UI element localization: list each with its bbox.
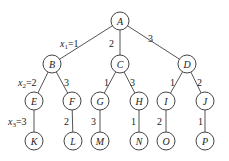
node-N: N [130, 132, 148, 150]
node-label: K [30, 136, 39, 147]
node-H: H [130, 92, 148, 110]
edge-label-D-I: 1 [170, 77, 175, 88]
node-A: A [111, 12, 129, 30]
edge-label-C-G: 1 [104, 77, 109, 88]
tree-diagram: x1=123x2=231312x3=323121 ABCDEFGHIJKLMNO… [0, 0, 229, 161]
node-label: M [95, 136, 105, 147]
node-D: D [178, 55, 196, 73]
node-K: K [25, 132, 43, 150]
node-I: I [157, 92, 175, 110]
node-G: G [91, 92, 109, 110]
node-E: E [25, 92, 43, 110]
edge-label-E-K: x3=3 [7, 116, 27, 129]
node-label: C [117, 59, 124, 70]
node-label: J [203, 96, 208, 107]
node-C: C [111, 55, 129, 73]
node-label: A [116, 16, 124, 27]
edge-label-I-O: 2 [157, 116, 162, 127]
node-label: D [182, 59, 191, 70]
node-label: B [49, 59, 55, 70]
edge-label-A-C: 2 [109, 38, 114, 49]
node-B: B [43, 55, 61, 73]
node-label: H [134, 96, 143, 107]
node-L: L [64, 132, 82, 150]
node-F: F [63, 92, 81, 110]
edge-label-F-L: 2 [64, 116, 69, 127]
edge-label-D-J: 2 [197, 77, 202, 88]
edge-B-E [38, 72, 48, 93]
node-label: F [68, 96, 76, 107]
edge-label-H-N: 1 [131, 116, 136, 127]
node-label: O [162, 136, 169, 147]
edge-label-C-H: 3 [130, 77, 135, 88]
node-label: P [201, 136, 208, 147]
node-label: E [30, 96, 37, 107]
edge-label-B-E: x2=2 [17, 77, 37, 90]
edge-label-J-P: 1 [198, 116, 203, 127]
node-O: O [157, 132, 175, 150]
edge-labels: x1=123x2=231312x3=323121 [7, 33, 203, 129]
edge-label-G-M: 3 [91, 116, 96, 127]
edge-F-L [72, 110, 73, 132]
node-M: M [91, 132, 109, 150]
edge-label-B-F: 3 [64, 77, 69, 88]
node-label: G [96, 96, 103, 107]
edge-label-A-D: 3 [148, 33, 153, 44]
node-label: L [69, 136, 76, 147]
node-P: P [196, 132, 214, 150]
node-label: I [163, 96, 168, 107]
node-label: N [135, 136, 144, 147]
node-J: J [196, 92, 214, 110]
edge-A-D [128, 26, 180, 59]
